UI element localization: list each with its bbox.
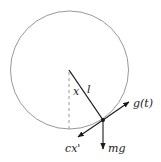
angle-label: x: [73, 85, 80, 98]
driving-force-label: g(t): [133, 97, 153, 110]
gravity-label: mg: [108, 142, 125, 155]
driving-force-arrow: [103, 102, 129, 120]
damping-label: cx': [65, 142, 80, 155]
length-label: l: [87, 83, 91, 96]
damping-force-arrow: [78, 120, 103, 137]
pendulum-diagram: x l g(t) mg cx': [0, 0, 161, 162]
